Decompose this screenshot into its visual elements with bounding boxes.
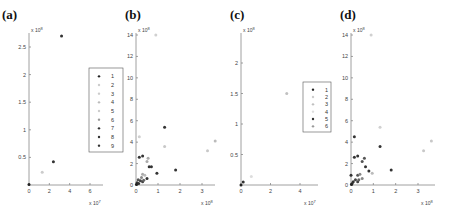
legend-label: 1 bbox=[111, 73, 114, 79]
legend-marker bbox=[312, 103, 314, 105]
y-tick-label: 0 bbox=[130, 182, 133, 188]
x-tick-label: 0 bbox=[134, 188, 137, 194]
y-tick-label: 0.5 bbox=[230, 152, 238, 158]
legend-label: 9 bbox=[111, 143, 114, 149]
data-point bbox=[379, 126, 382, 129]
data-point bbox=[163, 145, 166, 148]
x-tick-label: 4 bbox=[298, 188, 301, 194]
legend-label: 5 bbox=[325, 116, 328, 122]
y-tick-label: 1.5 bbox=[230, 91, 238, 97]
data-point bbox=[358, 173, 361, 176]
legend-marker bbox=[312, 125, 314, 127]
y-tick-label: 10 bbox=[127, 75, 133, 81]
data-point bbox=[206, 149, 209, 152]
data-point bbox=[163, 126, 166, 129]
panel-label: (d) bbox=[340, 7, 356, 22]
x-multiplier: x 107 bbox=[304, 199, 316, 206]
data-point bbox=[361, 160, 364, 163]
data-point bbox=[250, 175, 253, 178]
y-tick-label: 2 bbox=[130, 161, 133, 167]
data-point bbox=[370, 34, 373, 37]
data-point bbox=[146, 160, 149, 163]
legend-label: 7 bbox=[111, 125, 114, 131]
y-tick-label: 10 bbox=[342, 75, 348, 81]
y-multiplier: x 108 bbox=[353, 26, 365, 33]
y-multiplier: x 108 bbox=[31, 26, 43, 33]
legend-label: 3 bbox=[111, 91, 114, 97]
y-tick-label: 2.5 bbox=[18, 44, 26, 50]
legend-marker bbox=[98, 110, 100, 112]
data-point bbox=[52, 160, 55, 163]
panel-label: (c) bbox=[230, 7, 244, 22]
legend-label: 2 bbox=[111, 82, 114, 88]
legend-marker bbox=[98, 144, 100, 146]
x-tick-label: 2 bbox=[48, 188, 51, 194]
data-point bbox=[143, 174, 146, 177]
legend-marker bbox=[98, 92, 100, 94]
data-point bbox=[154, 34, 157, 37]
legend-label: 1 bbox=[325, 87, 328, 93]
data-point bbox=[356, 155, 359, 158]
legend-marker bbox=[312, 88, 314, 90]
x-multiplier: x 108 bbox=[201, 199, 213, 206]
x-tick-label: 0 bbox=[239, 188, 242, 194]
y-tick-label: 4 bbox=[345, 139, 348, 145]
data-point bbox=[140, 176, 143, 179]
x-multiplier: x 107 bbox=[89, 199, 101, 206]
x-tick-label: 2 bbox=[178, 188, 181, 194]
legend-label: 3 bbox=[325, 101, 328, 107]
data-point bbox=[142, 179, 145, 182]
y-tick-label: 1 bbox=[235, 121, 238, 127]
x-tick-label: 2 bbox=[269, 188, 272, 194]
data-point bbox=[350, 174, 353, 177]
legend-label: 5 bbox=[111, 108, 114, 114]
x-tick-label: 1 bbox=[372, 188, 375, 194]
figure: (a)02460.511.522.5x 108x 107123456789(b)… bbox=[0, 0, 452, 215]
legend-marker bbox=[98, 75, 100, 77]
y-tick-label: 0 bbox=[345, 182, 348, 188]
data-point bbox=[367, 170, 370, 173]
data-point bbox=[285, 92, 288, 95]
panel-label: (a) bbox=[2, 7, 17, 22]
data-point bbox=[214, 140, 217, 143]
y-tick-label: 8 bbox=[130, 96, 133, 102]
data-point bbox=[364, 165, 367, 168]
data-point bbox=[353, 135, 356, 138]
data-point bbox=[146, 177, 149, 180]
y-tick-label: 1.5 bbox=[18, 99, 26, 105]
y-tick-label: 2 bbox=[235, 60, 238, 66]
y-multiplier: x 108 bbox=[243, 26, 255, 33]
legend-label: 2 bbox=[325, 94, 328, 100]
x-tick-label: 3 bbox=[200, 188, 203, 194]
y-tick-label: 0.5 bbox=[18, 154, 26, 160]
data-point bbox=[357, 178, 360, 181]
data-point bbox=[422, 149, 425, 152]
data-point bbox=[430, 140, 433, 143]
x-multiplier: x 108 bbox=[421, 199, 433, 206]
data-point bbox=[371, 172, 374, 175]
x-tick-label: 6 bbox=[88, 188, 91, 194]
y-tick-label: 1 bbox=[23, 127, 26, 133]
data-point bbox=[41, 171, 44, 174]
data-point bbox=[147, 157, 150, 160]
legend-label: 6 bbox=[325, 123, 328, 129]
data-point bbox=[361, 177, 364, 180]
x-tick-label: 2 bbox=[394, 188, 397, 194]
legend-marker bbox=[98, 101, 100, 103]
y-tick-label: 2 bbox=[23, 72, 26, 78]
data-point bbox=[242, 180, 245, 183]
legend-marker bbox=[98, 118, 100, 120]
y-tick-label: 12 bbox=[127, 53, 133, 59]
data-point bbox=[240, 184, 243, 187]
data-point bbox=[138, 135, 141, 138]
y-tick-label: 4 bbox=[130, 139, 133, 145]
data-point bbox=[28, 183, 31, 186]
legend-marker bbox=[98, 136, 100, 138]
legend-marker bbox=[98, 127, 100, 129]
data-point bbox=[363, 157, 366, 160]
legend-marker bbox=[312, 118, 314, 120]
y-tick-label: 14 bbox=[127, 32, 133, 38]
legend-label: 4 bbox=[325, 109, 328, 115]
legend-label: 6 bbox=[111, 117, 114, 123]
x-tick-label: 0 bbox=[27, 188, 30, 194]
